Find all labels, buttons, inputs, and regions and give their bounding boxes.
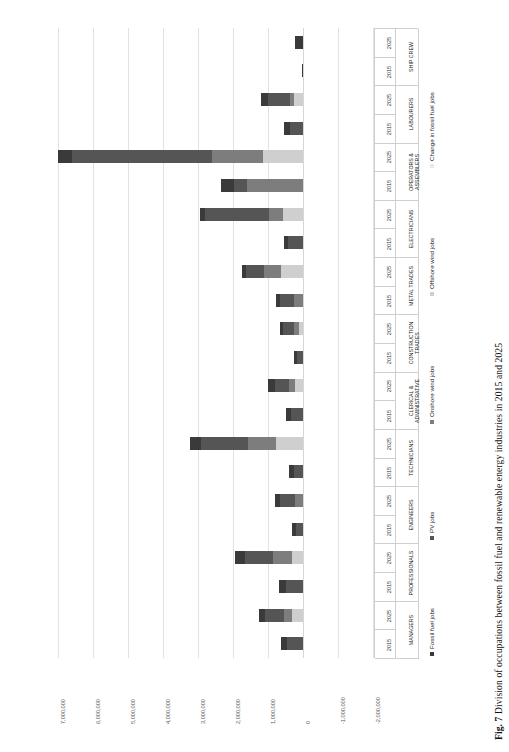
year-cell: 2015 bbox=[375, 115, 396, 144]
year-label: 2015 bbox=[386, 467, 392, 479]
category-label: CONSTRUCTIONTRADES bbox=[408, 322, 420, 365]
year-label: 2025 bbox=[386, 552, 392, 564]
year-label: 2025 bbox=[386, 323, 392, 335]
year-cell: 2015 bbox=[375, 229, 396, 258]
category-label: ELECTRICIANS bbox=[408, 210, 414, 249]
category-cell: ELECTRICIANS bbox=[396, 201, 419, 257]
year-cell: 2015 bbox=[375, 573, 396, 602]
bar-segment bbox=[283, 322, 294, 335]
year-cell: 2025 bbox=[375, 144, 396, 173]
category-axis-table: 20252015SHIP CREW20252015LABOURERS202520… bbox=[374, 28, 418, 658]
legend-item: PV jobs bbox=[428, 512, 435, 540]
bar-row bbox=[284, 122, 303, 135]
category-cell: CONSTRUCTIONTRADES bbox=[396, 315, 419, 371]
category-cell: MANAGERS bbox=[396, 602, 419, 658]
bar-segment bbox=[190, 437, 202, 450]
bar-segment bbox=[295, 36, 303, 49]
category-group: 20252015CLERICAL &ADMINISTRATIVE bbox=[375, 373, 419, 430]
bar-segment bbox=[72, 150, 212, 163]
legend-label: Offshore wind jobs bbox=[428, 238, 435, 289]
legend-item: Offshore wind jobs bbox=[428, 238, 435, 296]
legend-swatch bbox=[430, 652, 434, 656]
category-group: 20252015LABOURERS bbox=[375, 86, 419, 143]
figure-caption: Fig. 7 Division of occupations between f… bbox=[493, 343, 504, 740]
year-label: 2015 bbox=[386, 295, 392, 307]
category-label: OPERATORS &ASSEMBLERS bbox=[408, 153, 420, 191]
bar-row bbox=[292, 523, 303, 536]
bar-row bbox=[281, 637, 303, 650]
bar-segment bbox=[275, 379, 290, 392]
category-cell: METAL TRADES bbox=[396, 258, 419, 314]
year-cell: 2015 bbox=[375, 172, 396, 201]
x-tick-label: -1,000,000 bbox=[340, 697, 346, 724]
category-cell: LABOURERS bbox=[396, 86, 419, 142]
legend-label: Change in fossil fuel jobs bbox=[428, 92, 435, 161]
year-label: 2015 bbox=[386, 409, 392, 421]
chart-legend: Fossil fuel jobsPV jobsOnshore wind jobs… bbox=[424, 28, 454, 658]
year-label: 2025 bbox=[386, 151, 392, 163]
legend-item: Change in fossil fuel jobs bbox=[428, 92, 435, 168]
category-label: SHIP CREW bbox=[408, 42, 414, 72]
figure-caption-container: Fig. 7 Division of occupations between f… bbox=[467, 0, 507, 752]
bar-segment bbox=[287, 637, 303, 650]
year-cell: 2015 bbox=[375, 58, 396, 87]
bar-segment bbox=[276, 437, 303, 450]
category-group: 20252015ELECTRICIANS bbox=[375, 201, 419, 258]
year-label: 2015 bbox=[386, 238, 392, 250]
bar-segment bbox=[290, 122, 303, 135]
bar-row bbox=[235, 551, 303, 564]
year-label: 2025 bbox=[386, 380, 392, 392]
x-tick-label: 6,000,000 bbox=[95, 699, 101, 724]
x-tick-label: -2,000,000 bbox=[375, 697, 381, 724]
category-label: ENGINEERS bbox=[408, 500, 414, 531]
bar-segment bbox=[280, 494, 295, 507]
bar-segment bbox=[295, 494, 303, 507]
figure-page: 7,000,0006,000,0005,000,0004,000,0003,00… bbox=[0, 0, 509, 752]
bar-segment bbox=[269, 208, 283, 221]
bar-segment bbox=[288, 236, 303, 249]
category-cell: CLERICAL &ADMINISTRATIVE bbox=[396, 373, 419, 429]
bar-segment bbox=[295, 379, 303, 392]
bar-segment bbox=[248, 437, 275, 450]
year-cell: 2025 bbox=[375, 602, 396, 631]
year-label: 2025 bbox=[386, 208, 392, 220]
x-axis-tick-labels: 7,000,0006,000,0005,000,0004,000,0003,00… bbox=[58, 660, 373, 730]
year-label: 2025 bbox=[386, 94, 392, 106]
bar-segment bbox=[299, 322, 303, 335]
bar-segment bbox=[58, 150, 72, 163]
category-label: CLERICAL &ADMINISTRATIVE bbox=[408, 379, 420, 423]
category-label: PROFESSIONALS bbox=[408, 550, 414, 595]
bar-segment bbox=[201, 437, 248, 450]
x-tick-label: 4,000,000 bbox=[165, 699, 171, 724]
figure-caption-text: Division of occupations between fossil f… bbox=[493, 343, 504, 714]
bar-row bbox=[289, 465, 303, 478]
category-cell: SHIP CREW bbox=[396, 29, 419, 85]
category-group: 20252015METAL TRADES bbox=[375, 258, 419, 315]
bar-row bbox=[268, 379, 303, 392]
legend-item: Onshore wind jobs bbox=[428, 366, 435, 424]
category-label: METAL TRADES bbox=[408, 266, 414, 306]
year-cell: 2025 bbox=[375, 86, 396, 115]
category-cell: ENGINEERS bbox=[396, 487, 419, 543]
bar-segment bbox=[294, 294, 303, 307]
bar-segment bbox=[263, 150, 303, 163]
bar-segment bbox=[221, 179, 233, 192]
year-cell: 2025 bbox=[375, 544, 396, 573]
bar-segment bbox=[286, 580, 303, 593]
bar-row bbox=[200, 208, 303, 221]
gridline-6000000 bbox=[93, 28, 94, 658]
x-tick-label: 5,000,000 bbox=[130, 699, 136, 724]
year-label: 2025 bbox=[386, 609, 392, 621]
category-group: 20252015OPERATORS &ASSEMBLERS bbox=[375, 144, 419, 201]
year-label: 2025 bbox=[386, 37, 392, 49]
category-group: 20252015TECHNICIANS bbox=[375, 430, 419, 487]
bar-segment bbox=[264, 265, 280, 278]
bar-segment bbox=[234, 179, 247, 192]
category-group: 20252015ENGINEERS bbox=[375, 487, 419, 544]
gridline-5000000 bbox=[128, 28, 129, 658]
gridline--1000000 bbox=[338, 28, 339, 658]
year-cell: 2025 bbox=[375, 29, 396, 58]
bar-row bbox=[190, 437, 303, 450]
bar-segment bbox=[265, 609, 284, 622]
figure-number: Fig. 7 bbox=[493, 716, 504, 740]
